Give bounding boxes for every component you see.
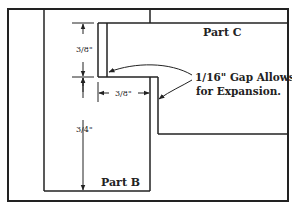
horizontal-dimension-label: 3/8" [115,89,132,98]
lower-vertical-dimension-label: 3/4" [76,125,93,134]
gap-note-line1: 1/16" Gap Allows [195,71,292,83]
upper-vertical-dimension-label: 3/8" [76,45,93,54]
part-b-outline [44,9,150,191]
gap-note-line2: for Expansion. [196,85,281,97]
outer-frame [8,9,288,201]
expansion-gap-diagram: Part C Part B 3/8" 3/4" 3/8" 1/16" Gap A… [0,0,292,207]
part-c-label: Part C [203,26,242,39]
part-b-label: Part B [101,176,140,189]
